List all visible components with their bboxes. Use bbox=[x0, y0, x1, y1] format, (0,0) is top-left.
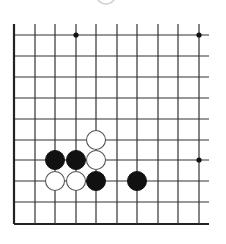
white-stone[interactable] bbox=[87, 131, 106, 150]
go-board bbox=[0, 0, 226, 244]
white-stone[interactable] bbox=[46, 172, 65, 191]
white-stone[interactable] bbox=[67, 172, 86, 191]
partial-stone-edge bbox=[96, 0, 116, 4]
black-stone[interactable] bbox=[67, 151, 86, 170]
white-stone[interactable] bbox=[87, 151, 106, 170]
black-stone[interactable] bbox=[128, 172, 147, 191]
star-point bbox=[73, 32, 78, 37]
cropped-stone-fragment bbox=[96, 0, 116, 4]
black-stone[interactable] bbox=[46, 151, 65, 170]
board-grid bbox=[14, 24, 209, 224]
star-point bbox=[196, 32, 201, 37]
black-stone[interactable] bbox=[87, 172, 106, 191]
star-point bbox=[196, 157, 201, 162]
